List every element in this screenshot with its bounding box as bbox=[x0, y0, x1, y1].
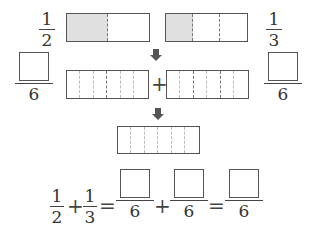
answer-box[interactable] bbox=[120, 169, 150, 198]
answer-box[interactable] bbox=[174, 169, 204, 198]
fraction-blank-over-six-left: 6 bbox=[14, 52, 54, 103]
plus-sign: + bbox=[154, 196, 171, 216]
answer-box[interactable] bbox=[19, 52, 49, 81]
equals-sign: = bbox=[99, 196, 116, 216]
eq-fraction-blank-over-six-3: 6 bbox=[225, 169, 263, 220]
denominator: 3 bbox=[85, 208, 96, 226]
half-bar-model bbox=[66, 13, 150, 42]
equals-sign: = bbox=[208, 196, 225, 216]
eq-fraction-blank-over-six-1: 6 bbox=[116, 169, 154, 220]
shaded-third-cell bbox=[166, 14, 193, 41]
sixths-bar-model-left bbox=[66, 70, 149, 99]
third-bar-model bbox=[165, 13, 248, 42]
sixths-bar-model-right bbox=[166, 70, 249, 99]
empty-third-cell bbox=[220, 14, 247, 41]
answer-box[interactable] bbox=[268, 52, 298, 81]
empty-half-cell bbox=[108, 14, 149, 41]
denominator: 6 bbox=[239, 202, 250, 220]
fraction-one-half-top: 1 2 bbox=[38, 10, 56, 49]
eq-fraction-one-third: 1 3 bbox=[82, 187, 98, 226]
eq-fraction-blank-over-six-2: 6 bbox=[170, 169, 208, 220]
shaded-half-cell bbox=[67, 14, 108, 41]
answer-box[interactable] bbox=[229, 169, 259, 198]
eq-fraction-one-half: 1 2 bbox=[49, 187, 65, 226]
denominator: 6 bbox=[278, 85, 289, 103]
denominator: 6 bbox=[29, 85, 40, 103]
numerator: 1 bbox=[269, 10, 280, 28]
sum-sixths-bar-model bbox=[117, 126, 200, 154]
denominator: 2 bbox=[52, 208, 63, 226]
denominator: 6 bbox=[130, 202, 141, 220]
fraction-blank-over-six-right: 6 bbox=[263, 52, 303, 103]
denominator: 3 bbox=[269, 31, 280, 49]
empty-third-cell bbox=[193, 14, 220, 41]
numerator: 1 bbox=[85, 187, 96, 205]
denominator: 2 bbox=[42, 31, 53, 49]
numerator: 1 bbox=[42, 10, 53, 28]
fraction-one-third-top: 1 3 bbox=[265, 10, 283, 49]
numerator: 1 bbox=[52, 187, 63, 205]
denominator: 6 bbox=[184, 202, 195, 220]
